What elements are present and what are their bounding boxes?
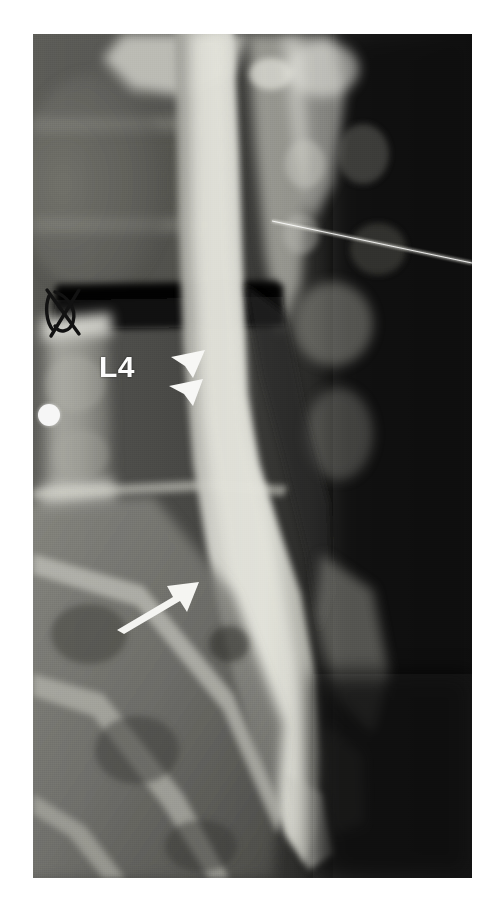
vertebral-body-l4: [39, 312, 117, 512]
figure-root: L4: [0, 0, 503, 907]
xray-canvas: [33, 34, 472, 878]
radiograph-image: L4: [33, 34, 472, 878]
lower-dark-field: [313, 674, 472, 878]
